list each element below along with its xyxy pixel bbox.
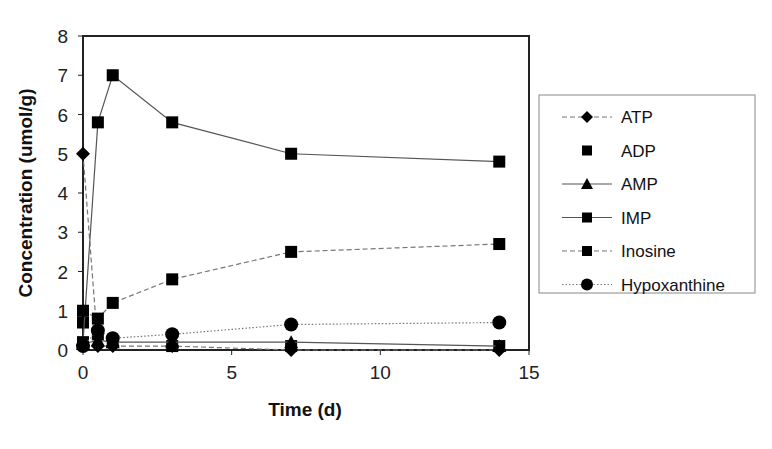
legend-label: IMP bbox=[621, 209, 651, 228]
legend-label: ADP bbox=[621, 142, 656, 161]
inosine-marker bbox=[77, 305, 89, 317]
hypoxanthine-marker bbox=[76, 339, 90, 353]
y-axis-title: Concentration (umol/g) bbox=[15, 89, 36, 298]
legend-label: Inosine bbox=[621, 242, 676, 261]
x-axis-title: Time (d) bbox=[268, 399, 342, 420]
imp-marker bbox=[166, 116, 178, 128]
hypoxanthine-marker bbox=[165, 327, 179, 341]
x-tick-label: 5 bbox=[226, 362, 237, 383]
legend-imp-marker bbox=[582, 213, 592, 223]
series-imp bbox=[77, 69, 505, 348]
y-tick-label: 0 bbox=[57, 340, 68, 361]
y-tick-label: 5 bbox=[57, 144, 68, 165]
atp-marker bbox=[76, 147, 90, 161]
y-tick-label: 1 bbox=[57, 301, 68, 322]
hypoxanthine-marker bbox=[106, 331, 120, 345]
imp-marker bbox=[285, 148, 297, 160]
inosine-marker bbox=[166, 273, 178, 285]
imp-marker bbox=[92, 116, 104, 128]
legend-label: AMP bbox=[621, 175, 658, 194]
y-tick-label: 3 bbox=[57, 222, 68, 243]
x-tick-label: 15 bbox=[518, 362, 539, 383]
y-tick-label: 6 bbox=[57, 105, 68, 126]
legend-inosine-marker bbox=[582, 246, 592, 256]
plot-frame bbox=[83, 36, 529, 350]
legend-adp-marker bbox=[582, 146, 592, 156]
y-tick-label: 2 bbox=[57, 262, 68, 283]
hypoxanthine-marker bbox=[492, 316, 506, 330]
y-tick-label: 8 bbox=[57, 26, 68, 47]
chart-canvas: 012345678 051015 Time (d) Concentration … bbox=[0, 0, 772, 449]
plot-area-border bbox=[83, 36, 529, 350]
x-tick-label: 10 bbox=[370, 362, 391, 383]
y-tick-label: 7 bbox=[57, 65, 68, 86]
series-inosine bbox=[77, 238, 505, 325]
imp-marker bbox=[493, 156, 505, 168]
x-tick-label: 0 bbox=[78, 362, 89, 383]
inosine-marker bbox=[285, 246, 297, 258]
y-tick-label: 4 bbox=[57, 183, 68, 204]
hypoxanthine-marker bbox=[91, 323, 105, 337]
inosine-marker bbox=[493, 238, 505, 250]
adp-marker bbox=[77, 317, 89, 329]
legend-hypoxanthine-marker bbox=[581, 279, 593, 291]
hypoxanthine-marker bbox=[284, 317, 298, 331]
legend-label: Hypoxanthine bbox=[621, 276, 725, 295]
inosine-marker bbox=[107, 297, 119, 309]
inosine-marker bbox=[92, 313, 104, 325]
series-layer bbox=[76, 69, 506, 357]
legend-label: ATP bbox=[621, 108, 653, 127]
legend: ATPADPAMPIMPInosineHypoxanthine bbox=[539, 95, 755, 295]
imp-marker bbox=[107, 69, 119, 81]
series-line bbox=[83, 75, 499, 342]
x-axis: 051015 bbox=[78, 350, 540, 383]
